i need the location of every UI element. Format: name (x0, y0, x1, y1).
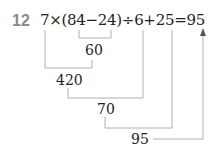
step-value-60: 60 (85, 42, 103, 58)
calculation-diagram (0, 0, 220, 155)
step-value-95: 95 (131, 131, 149, 147)
step-value-420: 420 (56, 72, 83, 88)
step-value-70: 70 (97, 101, 115, 117)
arrow-up-icon (200, 28, 206, 36)
